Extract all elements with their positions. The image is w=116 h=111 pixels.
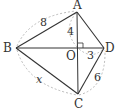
length-ab: 8 bbox=[40, 16, 47, 29]
vertex-label-b: B bbox=[3, 41, 12, 55]
vertex-label-d: D bbox=[105, 41, 115, 55]
vertex-label-o: O bbox=[66, 49, 76, 63]
vertex-label-c: C bbox=[74, 97, 83, 111]
length-ao: 4 bbox=[67, 25, 74, 38]
length-od: 3 bbox=[87, 49, 94, 62]
length-bc: x bbox=[36, 73, 43, 86]
quadrilateral-diagram: A B C D O 8 x 6 4 3 bbox=[0, 0, 116, 111]
length-cd: 6 bbox=[94, 71, 101, 84]
diagonal-ac bbox=[77, 12, 78, 94]
vertex-label-a: A bbox=[72, 0, 82, 12]
right-angle-marker bbox=[78, 43, 83, 48]
